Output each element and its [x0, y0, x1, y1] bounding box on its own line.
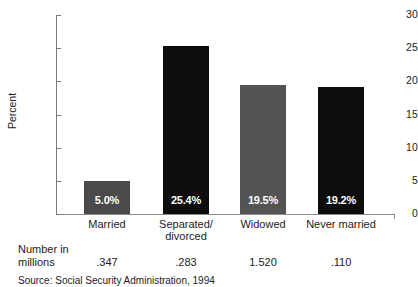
- number-value: .110: [291, 256, 391, 268]
- bar: 19.2%: [318, 87, 364, 214]
- bar-value-label: 25.4%: [171, 194, 201, 214]
- bar: 19.5%: [240, 85, 286, 214]
- bar-chart: 051015202530 Percent 5.0%25.4%19.5%19.2%…: [0, 0, 418, 287]
- category-label-line2: divorced: [136, 230, 236, 242]
- bar-value-label: 5.0%: [95, 194, 119, 214]
- number-label-line1: Number in: [18, 243, 108, 256]
- footer-table: Number in millions .347.2831.520.110 Sou…: [0, 243, 418, 287]
- plot-area: 051015202530 Percent 5.0%25.4%19.5%19.2%…: [0, 0, 418, 230]
- category-label: Never married: [291, 218, 391, 230]
- x-axis-line: [56, 214, 395, 215]
- y-tick-mark: [56, 214, 61, 215]
- bar-value-label: 19.5%: [248, 194, 278, 214]
- bar: 5.0%: [84, 181, 130, 214]
- bar-value-label: 19.2%: [326, 194, 356, 214]
- source-note: Source: Social Security Administration, …: [18, 275, 215, 286]
- bar: 25.4%: [163, 46, 209, 214]
- category-label-line1: Never married: [291, 218, 391, 230]
- bars-layer: 5.0%25.4%19.5%19.2%: [0, 0, 418, 214]
